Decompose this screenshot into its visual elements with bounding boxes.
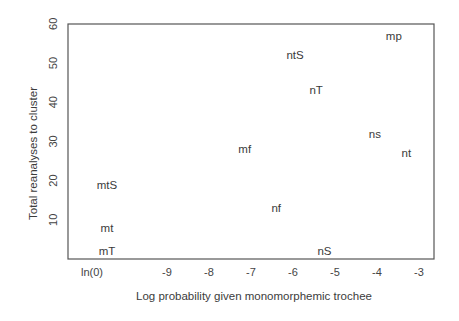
point-label-mt: mT — [99, 245, 116, 257]
x-tick-label: -6 — [288, 266, 298, 278]
point-label-nf: nf — [271, 202, 281, 214]
y-tick-label: 60 — [47, 18, 59, 30]
y-tick-label: 30 — [47, 135, 59, 147]
point-label-ns: nS — [317, 245, 331, 257]
x-axis-title: Log probability given monomorphemic troc… — [136, 290, 372, 302]
point-label-mts: mtS — [97, 179, 118, 191]
x-axis-tick-labels: ln(0)-9-8-7-6-5-4-3 — [81, 266, 424, 278]
y-axis-title: Total reanalyses to cluster — [27, 87, 39, 220]
point-label-ns: ns — [369, 128, 381, 140]
plot-frame — [68, 24, 434, 259]
point-label-mp: mp — [386, 30, 402, 42]
point-label-nts: ntS — [286, 49, 304, 61]
y-axis-tick-labels: 102030405060 — [47, 18, 59, 226]
y-tick-label: 20 — [47, 174, 59, 186]
x-tick-label: -3 — [414, 266, 424, 278]
x-tick-label: -5 — [330, 266, 340, 278]
y-tick-label: 50 — [47, 57, 59, 69]
y-tick-label: 40 — [47, 96, 59, 108]
scatter-chart: ln(0)-9-8-7-6-5-4-3 102030405060 Log pro… — [0, 0, 459, 321]
data-point-labels: mpntSnTnsntmfnfnSmtSmtmT — [97, 30, 412, 258]
x-tick-label: -8 — [204, 266, 214, 278]
x-tick-label: ln(0) — [81, 266, 103, 278]
x-tick-label: -4 — [372, 266, 382, 278]
point-label-nt: nt — [402, 147, 412, 159]
point-label-mt: mt — [101, 222, 115, 234]
x-tick-label: -9 — [162, 266, 172, 278]
point-label-nt: nT — [309, 84, 322, 96]
point-label-mf: mf — [238, 143, 252, 155]
x-tick-label: -7 — [246, 266, 256, 278]
y-tick-label: 10 — [47, 214, 59, 226]
